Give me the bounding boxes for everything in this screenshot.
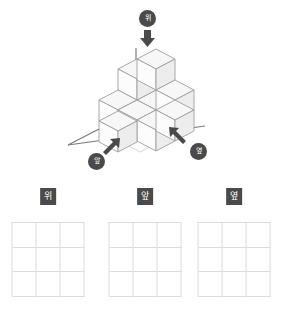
- grid-cell[interactable]: [134, 272, 158, 297]
- grid-cell[interactable]: [199, 223, 223, 248]
- view-block-front: 앞: [100, 182, 190, 312]
- grid-cell[interactable]: [61, 248, 85, 273]
- view-block-top: 위: [3, 182, 93, 312]
- grid-cell[interactable]: [158, 223, 182, 248]
- grid-cell[interactable]: [37, 248, 61, 273]
- grid-cell[interactable]: [37, 272, 61, 297]
- grid-cell[interactable]: [199, 272, 223, 297]
- grid-cell[interactable]: [110, 272, 134, 297]
- grid-cell[interactable]: [199, 248, 223, 273]
- solid-figure-panel: 위 앞 옆: [0, 0, 289, 182]
- grid-cell[interactable]: [223, 248, 247, 273]
- view-block-side: 옆: [189, 182, 279, 312]
- grid-cell[interactable]: [13, 248, 37, 273]
- solid-figure-illustration: [0, 0, 289, 182]
- arrow-down-icon: [140, 30, 155, 47]
- grid-cell[interactable]: [247, 248, 271, 273]
- grid-cell[interactable]: [13, 223, 37, 248]
- grid-cell[interactable]: [61, 272, 85, 297]
- grid-cell[interactable]: [247, 272, 271, 297]
- grid-cell[interactable]: [134, 248, 158, 273]
- direction-badge-side: 옆: [190, 143, 207, 160]
- grid-cell[interactable]: [223, 272, 247, 297]
- answer-grid-front[interactable]: [109, 222, 182, 297]
- grid-cell[interactable]: [134, 223, 158, 248]
- grid-cell[interactable]: [37, 223, 61, 248]
- view-label-side: 옆: [226, 188, 242, 205]
- answer-grid-side[interactable]: [198, 222, 271, 297]
- answer-grid-top[interactable]: [12, 222, 85, 297]
- grid-cell[interactable]: [158, 272, 182, 297]
- grid-cell[interactable]: [247, 223, 271, 248]
- direction-badge-top: 위: [139, 10, 156, 27]
- grid-cell[interactable]: [110, 223, 134, 248]
- grid-cell[interactable]: [158, 248, 182, 273]
- view-label-top: 위: [40, 188, 56, 205]
- view-label-front: 앞: [137, 188, 153, 205]
- direction-badge-front: 앞: [88, 153, 105, 170]
- grid-cell[interactable]: [13, 272, 37, 297]
- grid-cell[interactable]: [110, 248, 134, 273]
- grid-cell[interactable]: [61, 223, 85, 248]
- grid-cell[interactable]: [223, 223, 247, 248]
- views-panel: 위 앞 옆: [0, 182, 289, 312]
